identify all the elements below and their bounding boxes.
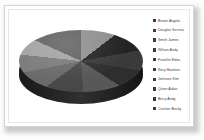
legend-item-label: Crocker Becky — [158, 107, 181, 111]
pie-chart-plot-area[interactable] — [9, 10, 151, 126]
legend-item[interactable]: Brown Angela — [153, 16, 195, 25]
legend-item[interactable]: Berry Andy — [153, 94, 195, 103]
legend-swatch-icon — [153, 78, 156, 81]
legend-swatch-icon — [153, 29, 156, 32]
legend-swatch-icon — [153, 48, 156, 51]
legend-swatch-icon — [153, 58, 156, 61]
legend-item[interactable]: Smith James — [153, 36, 195, 45]
legend-swatch-icon — [153, 97, 156, 100]
legend-item-label: Johnson Kim — [158, 77, 179, 81]
legend-item[interactable]: Franklin Edna — [153, 55, 195, 64]
chart-card: Brown Angela Douglas Serena Smith James … — [4, 5, 194, 127]
legend-swatch-icon — [153, 87, 156, 90]
chart-card-inner-border: Brown Angela Douglas Serena Smith James … — [8, 9, 190, 123]
legend-swatch-icon — [153, 107, 156, 110]
legend-item-label: Smith James — [158, 38, 179, 42]
chart-screenshot: Brown Angela Douglas Serena Smith James … — [0, 0, 204, 140]
legend-swatch-icon — [153, 68, 156, 71]
legend-swatch-icon — [153, 38, 156, 41]
legend-item-label: Brown Angela — [158, 19, 180, 23]
legend-item-label: Franklin Edna — [158, 58, 180, 62]
legend-item[interactable]: Crocker Becky — [153, 104, 195, 113]
pie-slices[interactable] — [19, 30, 143, 92]
legend-item[interactable]: Rory Hawkins — [153, 65, 195, 74]
legend-item[interactable]: Quinn Aidan — [153, 84, 195, 93]
legend-item[interactable]: Wilson Andy — [153, 45, 195, 54]
legend-item[interactable]: Johnson Kim — [153, 75, 195, 84]
legend-item-label: Rory Hawkins — [158, 68, 180, 72]
legend-item[interactable]: Douglas Serena — [153, 26, 195, 35]
chart-legend: Brown Angela Douglas Serena Smith James … — [153, 16, 195, 114]
legend-swatch-icon — [153, 19, 156, 22]
pie-3d-stage — [17, 24, 145, 116]
legend-item-label: Quinn Aidan — [158, 87, 178, 91]
legend-item-label: Douglas Serena — [158, 28, 184, 32]
legend-item-label: Wilson Andy — [158, 48, 178, 52]
legend-item-label: Berry Andy — [158, 97, 176, 101]
